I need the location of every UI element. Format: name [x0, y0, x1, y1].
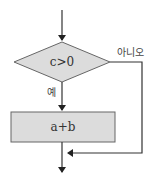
- decision-label: c>0: [50, 55, 74, 69]
- yes-label: 예: [47, 87, 56, 98]
- no-label: 아니오: [117, 47, 144, 58]
- flowchart: c>0 예 아니오 a+b: [0, 0, 159, 182]
- process-label: a+b: [51, 120, 76, 134]
